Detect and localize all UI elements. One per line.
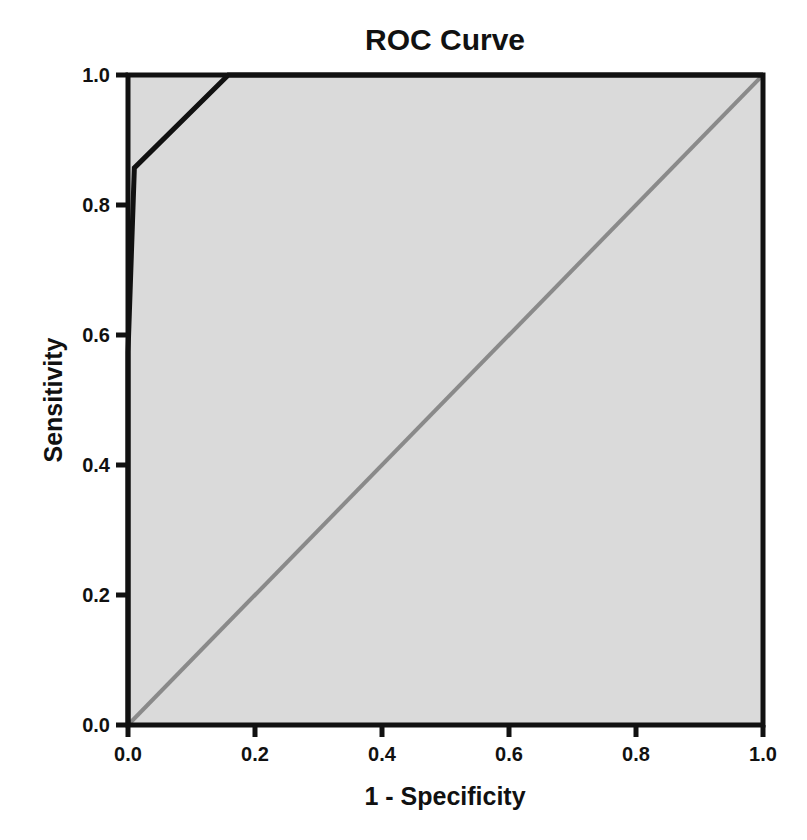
roc-chart: ROC Curve 0.00.20.40.60.81.0 0.00.20.40.… [0,0,807,840]
y-tick-label: 0.8 [82,194,110,216]
y-tick-label: 0.2 [82,584,110,606]
x-tick-label: 0.2 [241,743,269,765]
y-tick-label: 0.4 [82,454,111,476]
chart-title: ROC Curve [365,23,525,56]
x-tick-label: 0.8 [622,743,650,765]
x-tick-label: 0.4 [368,743,397,765]
y-tick-label: 1.0 [82,64,110,86]
y-axis-label: Sensitivity [39,337,67,462]
x-tick-label: 0.0 [114,743,142,765]
x-tick-label: 0.6 [495,743,523,765]
y-tick-label: 0.0 [82,714,110,736]
x-axis-label: 1 - Specificity [364,782,525,810]
y-tick-label: 0.6 [82,324,110,346]
x-tick-label: 1.0 [749,743,777,765]
x-axis: 0.00.20.40.60.81.0 [114,725,777,765]
y-axis: 0.00.20.40.60.81.0 [82,64,128,736]
